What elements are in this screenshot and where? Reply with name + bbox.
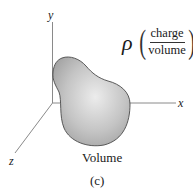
charge-per-volume-fraction: ( charge volume ): [137, 25, 193, 59]
right-paren: ): [188, 25, 193, 59]
figure-label: (c): [90, 174, 104, 187]
y-axis-label: y: [48, 9, 53, 21]
fraction: charge volume: [148, 27, 186, 58]
z-axis-label: z: [9, 155, 14, 167]
volume-blob: [53, 57, 130, 146]
volume-charge-density-figure: y x z ρ ( charge volume ) Volume (c): [0, 0, 193, 195]
x-axis-label: x: [178, 97, 183, 109]
left-paren: (: [139, 25, 146, 59]
fraction-numerator: charge: [150, 27, 185, 43]
z-axis: [15, 103, 53, 153]
fraction-denominator: volume: [148, 43, 186, 58]
volume-label: Volume: [82, 151, 122, 164]
rho-symbol: ρ: [122, 32, 133, 54]
